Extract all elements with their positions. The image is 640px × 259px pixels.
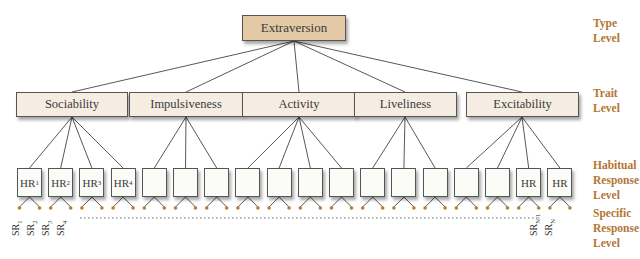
trait-box-sociability: Sociability [16, 92, 128, 117]
habitual-response-box: HR [516, 168, 541, 197]
habitual-response-box [204, 168, 229, 197]
habitual-response-box: HR3 [79, 168, 104, 197]
trait-label: Sociability [45, 97, 99, 112]
habitual-response-box [485, 168, 510, 197]
type-label: Extraversion [261, 20, 327, 36]
specific-response-label: SR4 [55, 221, 68, 236]
trait-label: Activity [279, 97, 320, 112]
habitual-response-box [235, 168, 260, 197]
level-label-type: TypeLevel [593, 16, 620, 46]
specific-response-label: SR2 [25, 221, 38, 236]
trait-box-activity: Activity [242, 92, 356, 117]
trait-box-impulsiveness: Impulsiveness [129, 92, 243, 117]
habitual-response-box [329, 168, 354, 197]
trait-label: Liveliness [380, 97, 431, 112]
habitual-response-box [360, 168, 385, 197]
habitual-response-box [142, 168, 167, 197]
trait-label: Excitability [493, 97, 551, 112]
habitual-response-box: HR [547, 168, 572, 197]
type-box-extraversion: Extraversion [242, 15, 346, 41]
habitual-response-box [454, 168, 479, 197]
habitual-response-box [173, 168, 198, 197]
specific-response-label: SRN [543, 219, 556, 236]
level-label-trait: TraitLevel [593, 86, 620, 116]
trait-box-liveliness: Liveliness [354, 92, 457, 117]
habitual-response-box [267, 168, 292, 197]
habitual-response-box [423, 168, 448, 197]
level-label-specific: SpecificResponseLevel [593, 206, 639, 251]
habitual-response-box: HR1 [17, 168, 42, 197]
trait-box-excitability: Excitability [466, 92, 579, 117]
habitual-response-box [298, 168, 323, 197]
habitual-response-box [391, 168, 416, 197]
trait-label: Impulsiveness [150, 97, 222, 112]
specific-response-label: SR3 [40, 221, 53, 236]
level-label-habitual: HabitualResponseLevel [593, 158, 639, 203]
specific-response-label: SR1 [10, 221, 23, 236]
specific-response-label: SRN-1 [528, 214, 541, 236]
habitual-response-box: HR2 [48, 168, 73, 197]
habitual-response-box: HR4 [111, 168, 136, 197]
